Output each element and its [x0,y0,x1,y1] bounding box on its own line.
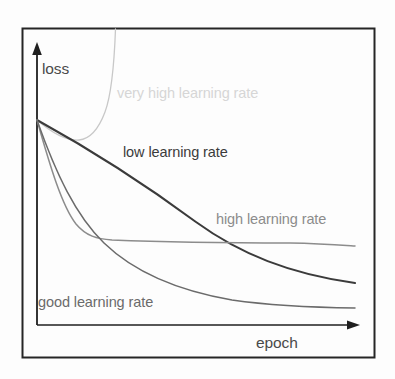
curve-label-very-high-learning-rate: very high learning rate [117,85,258,101]
curve-label-low-learning-rate: low learning rate [123,144,228,160]
curve-label-high-learning-rate: high learning rate [216,211,326,227]
learning-rate-loss-figure: loss epoch very high learning rate low l… [0,0,395,379]
curve-label-good-learning-rate: good learning rate [38,294,153,310]
loss-vs-epoch-plot [0,0,395,379]
x-axis-label: epoch [256,334,298,352]
y-axis-label: loss [42,60,69,78]
